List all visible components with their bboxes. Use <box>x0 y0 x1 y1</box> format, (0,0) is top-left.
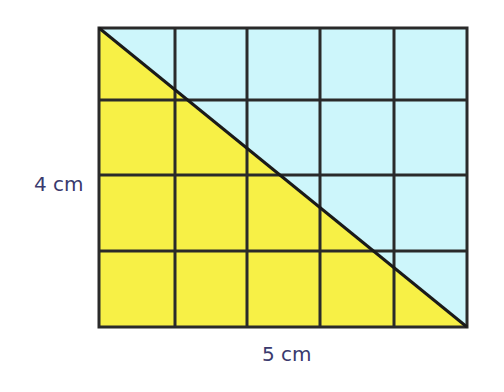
width-label: 5 cm <box>262 342 312 366</box>
height-label: 4 cm <box>34 172 84 196</box>
grid-diagram <box>0 0 504 392</box>
